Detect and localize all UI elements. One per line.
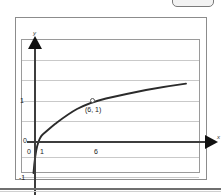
y-tick-label-neg1: -1 [19,174,25,181]
chart-frame: (6, 1) y x 1 0 -1 0 1 6 [15,17,207,180]
y-axis-name: y [33,30,36,36]
x-tick-label-1: 1 [40,148,44,155]
marked-point-label: (6, 1) [85,106,101,113]
gridline [22,177,199,178]
x-axis-line [27,141,208,143]
origin-label: 0 [27,148,31,155]
logarithmic-curve [22,40,201,174]
y-axis-arrow-icon [28,36,42,49]
x-tick-label-6: 6 [94,148,98,155]
bottom-divider-secondary [0,191,221,192]
y-axis-line [34,45,36,195]
curve-path [34,84,187,173]
marked-point-marker [90,98,95,103]
y-tick-label-1: 1 [20,97,24,104]
top-right-button[interactable] [172,0,214,7]
plot-area: (6, 1) y x 1 0 -1 0 1 6 [21,39,200,173]
bottom-divider [0,188,221,190]
y-tick-label-0: 0 [23,137,27,144]
x-axis-name: x [217,134,220,140]
